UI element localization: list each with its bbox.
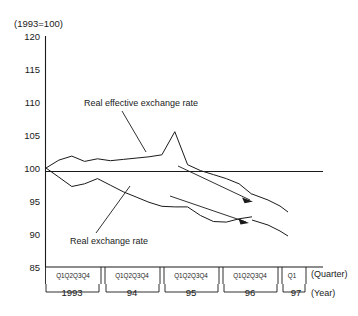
leader-line-real-effective <box>122 111 146 152</box>
year-label-97: 97 <box>291 287 302 298</box>
chart-container: (1993=100) 120 115 110 105 100 95 90 85 … <box>0 0 358 316</box>
y-tick-label-100: 100 <box>24 163 40 174</box>
quarter-ticks-97: Q1 <box>288 272 297 280</box>
y-tick-label-90: 90 <box>29 229 40 240</box>
y-tick-label-110: 110 <box>25 97 40 108</box>
y-tick-label-115: 115 <box>25 64 40 75</box>
pointer-arrow-real-exchange <box>170 196 249 225</box>
series-real-effective-tail <box>252 194 288 212</box>
series-real-exchange-tail <box>252 220 288 236</box>
y-tick-label-105: 105 <box>24 130 40 141</box>
unit-note-label: (1993=100) <box>14 18 63 29</box>
quarter-ticks-1993: Q1Q2Q3Q4 <box>56 272 90 280</box>
quarter-ticks-95: Q1Q2Q3Q4 <box>174 272 208 280</box>
year-label-1993: 1993 <box>61 287 82 298</box>
year-brackets <box>46 284 305 292</box>
quarter-ticks-96: Q1Q2Q3Q4 <box>233 272 267 280</box>
exchange-rate-line-chart: (1993=100) 120 115 110 105 100 95 90 85 … <box>0 0 358 316</box>
real-effective-exchange-rate-label: Real effective exchange rate <box>84 98 198 108</box>
year-label-94: 94 <box>127 287 138 298</box>
year-label-95: 95 <box>186 287 197 298</box>
series-real-exchange-rate <box>46 168 252 222</box>
x-axis-quarter-caption: (Quarter) <box>311 269 348 279</box>
y-tick-label-85: 85 <box>29 262 40 273</box>
year-label-96: 96 <box>245 287 256 298</box>
quarter-ticks-94: Q1Q2Q3Q4 <box>115 272 149 280</box>
y-tick-label-95: 95 <box>29 196 40 207</box>
real-exchange-rate-label: Real exchange rate <box>70 236 148 246</box>
y-tick-label-120: 120 <box>24 31 40 42</box>
leader-line-real-exchange <box>96 186 130 233</box>
x-axis-year-caption: (Year) <box>311 288 335 298</box>
